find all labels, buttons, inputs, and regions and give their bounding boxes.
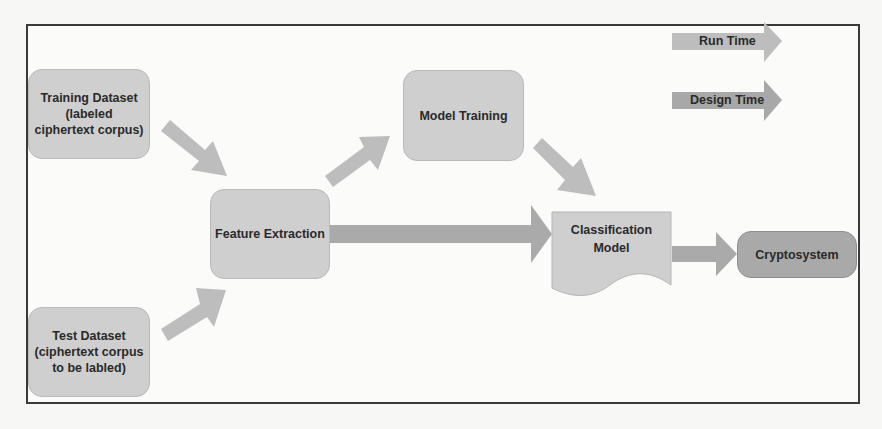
- test-dataset-line-2: (ciphertext corpus: [34, 344, 143, 360]
- training-dataset-line-2: (labeled: [34, 106, 143, 122]
- classification-model-line-2: Model: [571, 239, 652, 257]
- node-feature-extraction: Feature Extraction: [210, 189, 330, 279]
- test-dataset-line-1: Test Dataset: [34, 328, 143, 344]
- training-dataset-line-3: ciphertext corpus): [34, 122, 143, 138]
- test-dataset-line-3: to be labled): [34, 360, 143, 376]
- node-classification-model: Classification Model: [552, 214, 671, 264]
- classification-model-line-1: Classification: [571, 221, 652, 239]
- legend-run-time-label: Run Time: [699, 34, 756, 48]
- arrow-test-to-feature: [161, 288, 226, 341]
- node-cryptosystem: Cryptosystem: [737, 231, 857, 278]
- arrow-training-to-feature: [161, 120, 227, 176]
- node-training-dataset: Training Dataset (labeled ciphertext cor…: [28, 69, 150, 159]
- node-model-training: Model Training: [403, 70, 524, 161]
- node-test-dataset: Test Dataset (ciphertext corpus to be la…: [28, 307, 150, 397]
- feature-extraction-label: Feature Extraction: [215, 226, 325, 242]
- legend-design-time-label: Design Time: [690, 93, 764, 107]
- model-training-label: Model Training: [419, 108, 507, 124]
- arrow-feature-to-classification: [329, 205, 552, 263]
- arrow-classification-to-cryptosystem: [672, 232, 737, 276]
- arrow-model-training-to-classification: [533, 138, 596, 196]
- cryptosystem-label: Cryptosystem: [755, 247, 838, 263]
- training-dataset-line-1: Training Dataset: [34, 90, 143, 106]
- arrow-feature-to-model-training: [325, 136, 390, 187]
